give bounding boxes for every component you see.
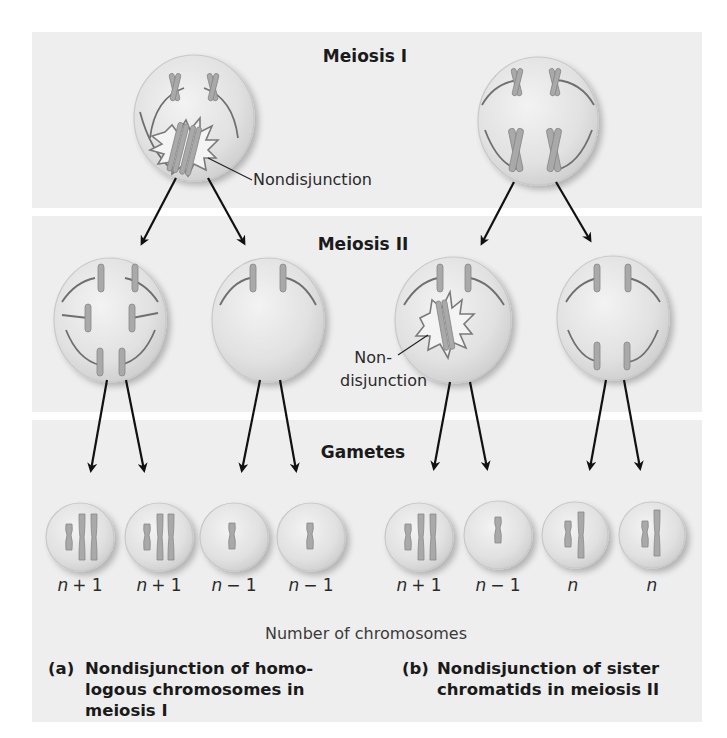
stage-title-meiosis-2: Meiosis II <box>318 234 409 254</box>
caption-b-tag: (b) <box>402 658 429 679</box>
chromatid-icon <box>97 348 103 376</box>
count-b1: n+ 1 <box>396 575 441 595</box>
label-nondisjunction-b-line2: disjunction <box>340 371 427 390</box>
chromatid-icon <box>594 342 600 370</box>
caption-a-tag: (a) <box>48 658 74 679</box>
gamete-b4 <box>619 502 685 568</box>
chromatid-icon <box>119 348 125 376</box>
stage-title-meiosis-1: Meiosis I <box>323 46 407 66</box>
caption-b: (b) Nondisjunction of sister chromatids … <box>402 658 702 700</box>
stage-title-gametes: Gametes <box>321 442 405 462</box>
gamete-b1 <box>385 503 453 571</box>
gamete-a1 <box>46 503 114 571</box>
count-b2: n− 1 <box>475 575 520 595</box>
count-a1: n+ 1 <box>57 575 102 595</box>
caption-a-line-3: meiosis I <box>85 700 348 721</box>
chromatid-icon <box>280 264 286 292</box>
count-b3: n <box>568 575 579 595</box>
cell-meiosis2-b2 <box>557 256 669 380</box>
chromatid-icon <box>98 264 104 292</box>
cell-meiosis2-a2 <box>212 258 324 382</box>
chromatid-icon <box>129 304 135 332</box>
count-a3: n− 1 <box>211 575 256 595</box>
chromatid-icon <box>465 264 471 292</box>
gamete-b2 <box>464 501 532 569</box>
caption-a-line-1: Nondisjunction of homo- <box>85 658 348 679</box>
cell-meiosis1-b <box>478 57 598 185</box>
gamete-a3 <box>200 503 268 571</box>
chromatid-icon <box>250 264 256 292</box>
label-nondisjunction-a: Nondisjunction <box>253 170 372 189</box>
axis-label-chromosome-count: Number of chromosomes <box>265 624 467 643</box>
chromatid-icon <box>85 304 91 332</box>
chromatid-icon <box>132 264 138 292</box>
caption-a: (a) Nondisjunction of homo- logous chrom… <box>48 658 348 721</box>
chromatid-icon <box>624 342 630 370</box>
count-a4: n− 1 <box>288 575 333 595</box>
chromatid-icon <box>625 264 631 292</box>
gamete-a4 <box>277 503 345 571</box>
count-b4: n <box>647 575 658 595</box>
chromatid-icon <box>437 264 443 292</box>
nondisjunction-diagram: Meiosis I Meiosis II Gametes Nondisjunct… <box>0 0 727 738</box>
chromatid-icon <box>594 264 600 292</box>
gamete-a2 <box>125 503 193 571</box>
caption-a-line-2: logous chromosomes in <box>85 679 348 700</box>
caption-b-line-2: chromatids in meiosis II <box>437 679 702 700</box>
cell-meiosis2-a1 <box>54 258 166 382</box>
caption-b-line-1: Nondisjunction of sister <box>437 658 702 679</box>
gamete-b3 <box>542 502 608 568</box>
count-a2: n+ 1 <box>136 575 181 595</box>
label-nondisjunction-b-line1: Non- <box>354 348 392 367</box>
